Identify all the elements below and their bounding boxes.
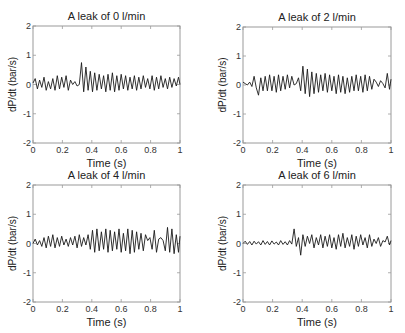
x-tick-label: 0 bbox=[30, 145, 35, 155]
x-tick-label: 0.6 bbox=[326, 304, 339, 314]
y-tick-label: -1 bbox=[233, 109, 241, 119]
x-tick-label: 0.8 bbox=[144, 304, 157, 314]
x-tick-label: 0.4 bbox=[296, 304, 309, 314]
x-tick-label: 0 bbox=[240, 145, 245, 155]
y-tick-label: -2 bbox=[23, 138, 31, 148]
x-tick-label: 0.4 bbox=[296, 145, 309, 155]
x-axis-label: Time (s) bbox=[87, 316, 127, 328]
x-tick-label: 0.4 bbox=[86, 304, 99, 314]
y-tick-label: 0 bbox=[26, 80, 31, 90]
subplot-1: A leak of 2 l/min00.20.40.60.81210-1-2Ti… bbox=[217, 11, 394, 169]
x-tick-label: 0.8 bbox=[355, 145, 368, 155]
axes-box bbox=[243, 27, 391, 143]
y-tick-label: 0 bbox=[26, 239, 31, 249]
subplot-title: A leak of 6 l/min bbox=[278, 169, 356, 181]
y-tick-label: -1 bbox=[23, 109, 31, 119]
x-tick-label: 1 bbox=[388, 304, 393, 314]
x-tick-label: 1 bbox=[388, 145, 393, 155]
x-tick-label: 0.6 bbox=[326, 145, 339, 155]
subplot-2: A leak of 4 l/min00.20.40.60.81210-1-2Ti… bbox=[7, 169, 183, 328]
y-tick-label: 2 bbox=[236, 22, 241, 32]
y-tick-label: -1 bbox=[23, 268, 31, 278]
y-tick-label: 0 bbox=[236, 80, 241, 90]
subplot-title: A leak of 0 l/min bbox=[68, 10, 146, 22]
x-tick-label: 0 bbox=[240, 304, 245, 314]
y-tick-label: -2 bbox=[233, 297, 241, 307]
x-axis-label: Time (s) bbox=[87, 157, 127, 169]
subplot-3: A leak of 6 l/min00.20.40.60.81210-1-2Ti… bbox=[217, 169, 394, 328]
x-tick-label: 0 bbox=[30, 304, 35, 314]
subplot-title: A leak of 2 l/min bbox=[278, 11, 356, 23]
axes-box bbox=[243, 185, 391, 302]
x-tick-label: 1 bbox=[177, 304, 182, 314]
figure: A leak of 0 l/min00.20.40.60.81210-1-2Ti… bbox=[0, 0, 405, 333]
x-axis-label: Time (s) bbox=[297, 157, 337, 169]
signal-trace bbox=[243, 229, 391, 255]
y-tick-label: 2 bbox=[236, 180, 241, 190]
x-tick-label: 0.6 bbox=[115, 145, 128, 155]
x-tick-label: 1 bbox=[177, 145, 182, 155]
y-tick-label: 2 bbox=[26, 21, 31, 31]
signal-trace bbox=[33, 227, 180, 253]
x-tick-label: 0.2 bbox=[56, 145, 69, 155]
y-tick-label: 2 bbox=[26, 180, 31, 190]
x-tick-label: 0.8 bbox=[355, 304, 368, 314]
y-axis-label: dP/dt (bar/s) bbox=[7, 216, 18, 271]
x-tick-label: 0.6 bbox=[115, 304, 128, 314]
x-tick-label: 0.8 bbox=[144, 145, 157, 155]
y-tick-label: 1 bbox=[236, 51, 241, 61]
signal-trace bbox=[33, 63, 180, 92]
y-axis-label: dP/dt (bar/s) bbox=[7, 57, 18, 112]
x-tick-label: 0.2 bbox=[56, 304, 69, 314]
subplot-0: A leak of 0 l/min00.20.40.60.81210-1-2Ti… bbox=[7, 10, 183, 169]
y-tick-label: 1 bbox=[236, 209, 241, 219]
y-tick-label: 0 bbox=[236, 239, 241, 249]
y-axis-label: dP/dt (bar/s) bbox=[217, 57, 228, 112]
y-tick-label: 1 bbox=[26, 50, 31, 60]
y-tick-label: -2 bbox=[233, 138, 241, 148]
y-axis-label: dP/dt (bar/s) bbox=[217, 216, 228, 271]
subplot-title: A leak of 4 l/min bbox=[68, 169, 146, 181]
y-tick-label: 1 bbox=[26, 209, 31, 219]
x-tick-label: 0.2 bbox=[266, 304, 279, 314]
y-tick-label: -2 bbox=[23, 297, 31, 307]
y-tick-label: -1 bbox=[233, 268, 241, 278]
signal-trace bbox=[243, 66, 391, 96]
x-axis-label: Time (s) bbox=[297, 316, 337, 328]
x-tick-label: 0.4 bbox=[86, 145, 99, 155]
x-tick-label: 0.2 bbox=[266, 145, 279, 155]
